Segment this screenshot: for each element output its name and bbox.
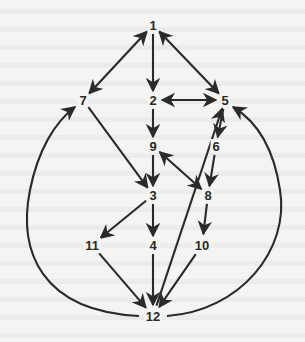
- node-1: 1: [148, 18, 159, 33]
- edge-11-to-12: [99, 253, 146, 307]
- node-label: 5: [221, 93, 228, 108]
- node-label: 12: [146, 309, 160, 324]
- node-12: 12: [144, 309, 162, 324]
- edge-12-to-7: [27, 107, 139, 316]
- node-11: 11: [83, 238, 101, 253]
- edge-6-to-8: [209, 155, 214, 186]
- node-3: 3: [148, 188, 159, 203]
- node-label: 10: [195, 238, 209, 253]
- node-label: 11: [85, 238, 99, 253]
- node-5: 5: [220, 93, 231, 108]
- node-2: 2: [148, 93, 159, 108]
- directed-graph: 125796381141012: [0, 0, 305, 342]
- node-label: 4: [149, 238, 157, 253]
- node-4: 4: [148, 238, 159, 253]
- node-10: 10: [193, 238, 211, 253]
- edges-layer: [27, 31, 281, 316]
- edge-7-to-3: [88, 107, 147, 188]
- node-7: 7: [78, 93, 89, 108]
- node-6: 6: [211, 139, 222, 154]
- node-label: 8: [204, 188, 211, 203]
- node-label: 9: [149, 139, 156, 154]
- node-9: 9: [148, 139, 159, 154]
- edge-12-to-5: [167, 107, 281, 316]
- node-label: 6: [212, 139, 219, 154]
- node-label: 2: [149, 93, 156, 108]
- edge-8-to-10: [203, 204, 207, 234]
- edge-8-to-9: [160, 152, 202, 189]
- node-8: 8: [203, 188, 214, 203]
- edge-3-to-11: [101, 201, 147, 238]
- node-label: 1: [149, 18, 156, 33]
- node-label: 3: [149, 188, 156, 203]
- edge-1-to-7: [89, 32, 147, 94]
- node-label: 7: [79, 93, 86, 108]
- edge-1-to-5: [159, 31, 219, 93]
